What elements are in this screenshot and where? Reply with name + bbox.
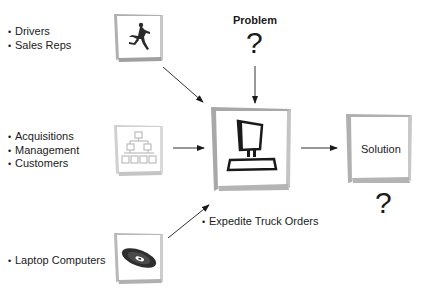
solution-card: Solution (345, 113, 413, 185)
computer-card (210, 106, 292, 193)
list-item: Sales Reps (8, 39, 71, 53)
problem-title: Problem (233, 14, 277, 26)
runner-icon (125, 22, 153, 54)
people-card (113, 13, 164, 63)
solution-question-mark: ? (375, 188, 392, 218)
organization-list: Acquisitions Management Customers (8, 130, 79, 171)
arrow-people-to-center (163, 67, 203, 102)
list-item: Drivers (8, 25, 71, 39)
list-item: Management (8, 144, 79, 158)
problem-question-mark: ? (246, 28, 263, 58)
organization-card (113, 124, 164, 177)
disc-icon (120, 246, 158, 270)
technology-list: Laptop Computers (8, 254, 106, 268)
org-chart-icon (121, 131, 157, 167)
list-item: Acquisitions (8, 130, 79, 144)
computer-icon (226, 119, 278, 175)
solution-label: Solution (361, 143, 401, 155)
people-list: Drivers Sales Reps (8, 25, 71, 52)
center-caption: Expedite Truck Orders (202, 215, 318, 227)
list-item: Customers (8, 157, 79, 171)
list-item: Laptop Computers (8, 254, 106, 268)
technology-card (113, 232, 164, 285)
